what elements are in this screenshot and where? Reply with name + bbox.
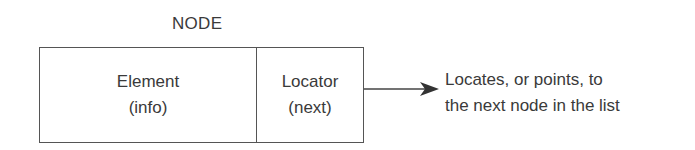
element-cell: Element (info)	[40, 48, 257, 142]
arrow-right-icon	[364, 80, 444, 98]
element-sublabel: (info)	[129, 95, 168, 121]
element-label: Element	[117, 69, 179, 95]
locator-sublabel: (next)	[288, 95, 331, 121]
node-title: NODE	[172, 14, 222, 34]
locator-cell: Locator (next)	[257, 48, 363, 142]
locator-label: Locator	[282, 69, 339, 95]
pointer-description: Locates, or points, to the next node in …	[445, 67, 620, 119]
description-line-2: the next node in the list	[445, 93, 620, 119]
description-line-1: Locates, or points, to	[445, 67, 620, 93]
node-box: Element (info) Locator (next)	[39, 47, 364, 143]
